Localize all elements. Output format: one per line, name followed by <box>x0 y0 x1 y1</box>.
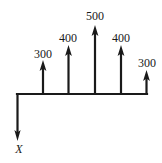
diagram-canvas <box>0 0 162 163</box>
load-arrow-1 <box>40 60 47 94</box>
load-arrow-2 <box>65 45 72 94</box>
force-diagram: 300 400 500 400 300 X <box>0 0 162 163</box>
load-label-1: 300 <box>34 48 52 60</box>
load-arrow-4 <box>118 45 125 94</box>
x-axis-label: X <box>15 143 22 155</box>
load-arrow-3 <box>92 25 99 94</box>
load-label-2: 400 <box>59 32 77 44</box>
load-label-5: 300 <box>138 57 156 69</box>
load-label-4: 400 <box>112 32 130 44</box>
load-label-3: 500 <box>86 10 104 22</box>
load-arrow-5 <box>143 70 150 94</box>
